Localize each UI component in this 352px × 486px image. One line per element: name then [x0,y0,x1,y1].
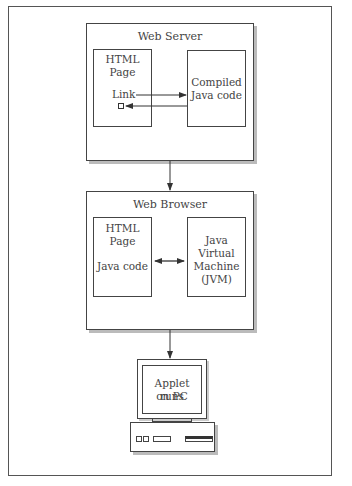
arrows-layer [0,0,352,486]
